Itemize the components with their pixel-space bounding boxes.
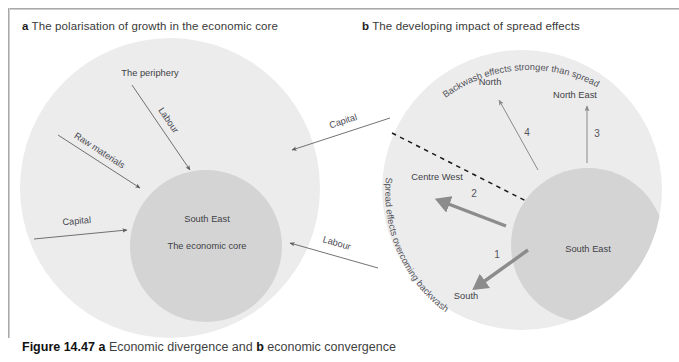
figure-caption-text-a: Economic divergence and	[109, 340, 253, 354]
panel-b-arrow-number-2: 2	[471, 188, 477, 199]
figure-caption: Figure 14.47 a Economic divergence and b…	[22, 340, 396, 354]
panel-b-diagram: Backwash effects stronger than spread Sp…	[382, 50, 665, 330]
figure-caption-marker-b: b	[256, 340, 264, 354]
figure-caption-number: Figure 14.47	[22, 340, 95, 354]
panel-b-arrow-number-3: 3	[594, 128, 600, 139]
figure-caption-text-b: economic convergence	[267, 340, 396, 354]
panel-b-region-label-south-east: South East	[565, 244, 611, 254]
panel-a-diagram: The periphery South East The economic co…	[20, 38, 390, 338]
panel-a-arrow-label-labour-external: Labour	[322, 234, 352, 251]
panel-b-arrow-number-1: 1	[494, 249, 500, 260]
panel-b-region-label-centre-west: Centre West	[411, 172, 463, 182]
panel-a-core-label-economic-core: The economic core	[167, 241, 246, 251]
panel-b-region-label-north-east: North East	[553, 90, 597, 100]
panel-a-arrow-label-capital-external: Capital	[328, 112, 358, 130]
figure-container: a The polarisation of growth in the econ…	[0, 0, 679, 362]
panel-a-core-label-south-east: South East	[184, 214, 230, 224]
figure-caption-marker-a: a	[98, 340, 105, 354]
panel-b-region-label-south: South	[454, 291, 478, 301]
diagram-canvas: The periphery South East The economic co…	[0, 0, 679, 362]
panel-b-arrow-number-4: 4	[524, 127, 530, 138]
panel-a-periphery-label: The periphery	[121, 68, 179, 78]
panel-b-region-label-north: North	[479, 77, 502, 87]
